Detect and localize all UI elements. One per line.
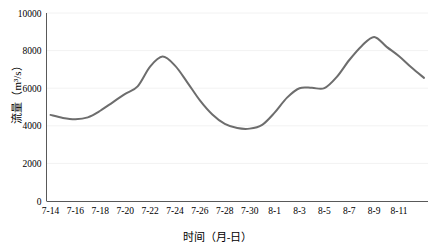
x-tick-label: 7-14 [42, 206, 60, 216]
y-tick-label: 2000 [23, 159, 42, 169]
x-axis-tick-labels: 7-147-167-187-207-227-247-267-287-308-18… [42, 206, 408, 216]
x-tick-label: 8-7 [343, 206, 356, 216]
x-tick-label: 7-22 [141, 206, 159, 216]
x-tick-label: 7-16 [67, 206, 85, 216]
x-tick-label: 8-1 [268, 206, 281, 216]
y-tick-label: 10000 [18, 9, 42, 19]
y-axis-title: 流量（m³/s） [8, 42, 24, 142]
x-tick-label: 7-24 [166, 206, 184, 216]
gridlines [47, 13, 429, 163]
x-tick-label: 7-30 [241, 206, 259, 216]
chart-plot-area: 0200040006000800010000 7-147-167-187-207… [0, 0, 435, 247]
flow-discharge-line-chart: 0200040006000800010000 7-147-167-187-207… [0, 0, 435, 247]
y-tick-label: 6000 [23, 84, 42, 94]
x-tick-label: 8-5 [318, 206, 331, 216]
y-tick-label: 8000 [23, 46, 42, 56]
x-tick-label: 7-26 [191, 206, 209, 216]
x-tick-label: 7-20 [116, 206, 134, 216]
x-tick-label: 8-11 [391, 206, 408, 216]
x-tick-label: 7-18 [92, 206, 110, 216]
x-tick-label: 8-3 [293, 206, 306, 216]
x-tick-label: 8-9 [368, 206, 381, 216]
x-tick-label: 7-28 [216, 206, 234, 216]
x-axis-title: 时间（月-日） [0, 228, 435, 244]
y-tick-label: 0 [37, 197, 42, 207]
y-tick-label: 4000 [23, 121, 42, 131]
